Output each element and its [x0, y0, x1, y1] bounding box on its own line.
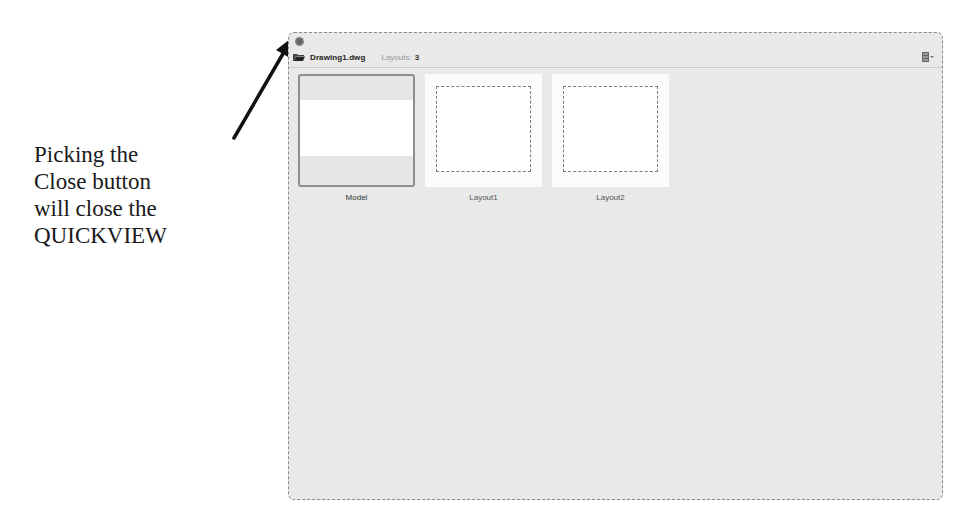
thumbnail-label: Model: [346, 193, 368, 202]
paper-sheet: [563, 86, 658, 172]
quickview-drawings-panel: Drawing1.dwg Layouts: 3 Model Layout1 La…: [288, 32, 943, 500]
layout-thumbnails: Model Layout1 Layout2: [298, 74, 669, 202]
model-preview[interactable]: [298, 74, 415, 187]
thumbnail-model[interactable]: Model: [298, 74, 415, 202]
thumbnail-layout2[interactable]: Layout2: [552, 74, 669, 202]
quickview-header: Drawing1.dwg Layouts: 3: [289, 47, 942, 68]
thumbnail-label: Layout1: [469, 193, 497, 202]
caption-line: Picking the: [34, 141, 274, 168]
folder-icon: [293, 53, 305, 61]
layouts-label: Layouts:: [381, 53, 411, 62]
view-options-icon[interactable]: [922, 52, 934, 62]
paper-sheet: [436, 86, 531, 172]
caption-line: QUICKVIEW: [34, 222, 274, 249]
layouts-count: 3: [415, 53, 419, 62]
close-button[interactable]: [295, 37, 304, 46]
drawing-filename: Drawing1.dwg: [310, 53, 365, 62]
caption-line: Close button: [34, 168, 274, 195]
layout1-preview[interactable]: [425, 74, 542, 187]
thumbnail-layout1[interactable]: Layout1: [425, 74, 542, 202]
annotation-caption: Picking the Close button will close the …: [34, 141, 274, 249]
thumbnail-label: Layout2: [596, 193, 624, 202]
layout2-preview[interactable]: [552, 74, 669, 187]
caption-line: will close the: [34, 195, 274, 222]
